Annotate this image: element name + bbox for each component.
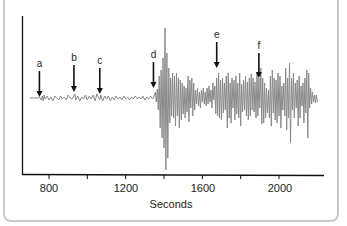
tick-label-1600: 1600 (191, 182, 215, 194)
arrow-down-icon (71, 86, 77, 92)
annotation-label: a (37, 58, 43, 69)
annotation-label: b (71, 52, 77, 63)
annotation-a: a (36, 58, 42, 97)
arrow-down-icon (36, 91, 42, 97)
annotation-label: f (257, 40, 260, 51)
annotation-e: e (214, 29, 220, 68)
annotation-f: f (256, 40, 262, 78)
tick-label-800: 800 (40, 182, 58, 194)
arrow-down-icon (97, 88, 103, 94)
annotation-label: e (214, 29, 220, 40)
tick-label-2000: 2000 (268, 182, 292, 194)
chart: 800 1200 1600 2000 Seconds abcdef (0, 0, 347, 226)
annotation-b: b (71, 52, 77, 92)
annotation-label: c (97, 55, 102, 66)
annotation-d: d (150, 49, 156, 88)
annotation-c: c (97, 55, 103, 94)
arrow-down-icon (214, 62, 220, 68)
signal-line (30, 28, 318, 170)
arrow-down-icon (150, 82, 156, 88)
tick-label-1200: 1200 (114, 182, 138, 194)
x-axis-title: Seconds (150, 198, 193, 210)
annotation-label: d (151, 49, 157, 60)
